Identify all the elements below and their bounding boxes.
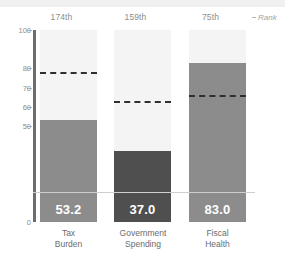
y-axis-spine (33, 30, 36, 222)
category-label-tax-burden: Tax Burden (40, 228, 97, 249)
y-tick-label-0: 0 (27, 219, 31, 227)
rank-legend-text: Rank (258, 13, 277, 22)
bar-fill-fiscal-health[interactable] (189, 63, 246, 222)
y-tick-label-50: 50 (23, 123, 31, 131)
reference-line-fiscal-health (189, 95, 246, 97)
reference-line-tax-burden (40, 72, 97, 74)
reference-line-government-spending (114, 101, 171, 103)
y-tick-label-80: 80 (23, 65, 31, 73)
bar-value-tax-burden: 53.2 (40, 202, 97, 217)
category-label-fiscal-health: Fiscal Health (189, 228, 246, 249)
y-tick-label-60: 60 (23, 104, 31, 112)
y-tick-label-100: 100 (18, 27, 31, 35)
x-axis-baseline (33, 192, 255, 193)
rank-legend: Rank (252, 13, 277, 22)
rank-label-fiscal-health: 75th (182, 12, 239, 22)
bar-chart: 174th 159th 75th Rank 100 80 70 60 50 0 … (0, 0, 285, 261)
rank-label-tax-burden: 174th (33, 12, 90, 22)
bar-value-fiscal-health: 83.0 (189, 202, 246, 217)
rank-label-government-spending: 159th (107, 12, 164, 22)
bar-value-government-spending: 37.0 (114, 202, 171, 217)
y-tick-label-70: 70 (23, 85, 31, 93)
rank-legend-dash-icon (252, 17, 256, 18)
plot-area: 100 80 70 60 50 0 53.2 37.0 83. (0, 30, 285, 222)
category-label-government-spending: Government Spending (108, 228, 178, 249)
